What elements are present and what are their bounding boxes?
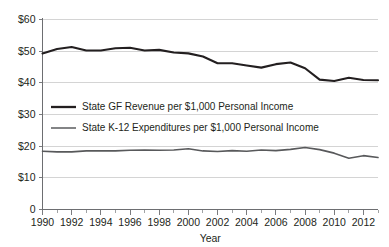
- x-tick-label-1994: 1994: [89, 216, 113, 228]
- y-tick-label-60: $60: [18, 13, 36, 25]
- y-tick-label-20: $20: [18, 140, 36, 152]
- legend-label-1: State K-12 Expenditures per $1,000 Perso…: [82, 122, 319, 133]
- x-tick-label-1996: 1996: [118, 216, 142, 228]
- y-tick-label-50: $50: [18, 45, 36, 57]
- y-tick-label-30: $30: [18, 108, 36, 120]
- series-line-1: [43, 147, 379, 158]
- tick-marks-group: [39, 20, 379, 215]
- x-tick-label-2008: 2008: [293, 216, 317, 228]
- series-line-0: [43, 47, 379, 81]
- x-tick-label-2004: 2004: [235, 216, 259, 228]
- x-tick-label-1998: 1998: [148, 216, 172, 228]
- y-tick-label-0: 0: [30, 203, 36, 215]
- x-tick-label-2006: 2006: [264, 216, 288, 228]
- chart-legend: State GF Revenue per $1,000 Personal Inc…: [51, 101, 319, 133]
- x-tick-label-2002: 2002: [206, 216, 230, 228]
- gridlines-group: [43, 20, 379, 210]
- chart-canvas: 0$10$20$30$40$50$60 19901992199419961998…: [0, 0, 389, 247]
- y-tick-label-40: $40: [18, 76, 36, 88]
- legend-label-0: State GF Revenue per $1,000 Personal Inc…: [82, 101, 294, 112]
- y-tick-label-10: $10: [18, 171, 36, 183]
- x-axis-tick-labels: 1990199219941996199820002002200420062008…: [31, 216, 375, 228]
- x-axis-title: Year: [200, 232, 222, 244]
- x-tick-label-1992: 1992: [60, 216, 84, 228]
- line-chart: 0$10$20$30$40$50$60 19901992199419961998…: [0, 0, 389, 247]
- x-tick-label-1990: 1990: [31, 216, 55, 228]
- x-tick-label-2012: 2012: [352, 216, 376, 228]
- x-tick-label-2000: 2000: [177, 216, 201, 228]
- x-tick-label-2010: 2010: [323, 216, 347, 228]
- y-axis-tick-labels: 0$10$20$30$40$50$60: [18, 13, 36, 215]
